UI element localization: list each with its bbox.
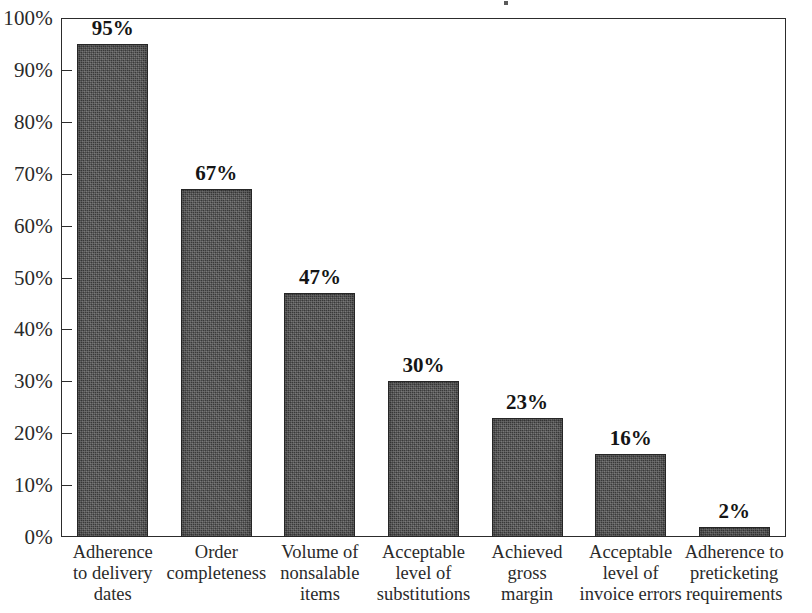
bar[interactable] [699,527,770,537]
x-axis-labels: Adherenceto deliverydatesOrdercompletene… [61,542,786,613]
x-axis-category-line: Order [161,542,273,563]
bar-slot: 2% [699,18,770,537]
x-axis-category-line: Adherence [57,542,169,563]
x-axis-category-line: Adherence to [678,542,790,563]
y-axis: 0%10%20%30%40%50%60%70%80%90%100% [0,0,61,613]
bar-chart-figure: 0%10%20%30%40%50%60%70%80%90%100% 95%67%… [0,0,812,613]
x-axis-category-line: substitutions [368,584,480,605]
y-tick-label: 20% [14,423,53,444]
bar-value-label: 23% [492,392,563,413]
bar[interactable] [492,418,563,537]
bar[interactable] [388,381,459,537]
y-tick-label: 60% [14,215,53,236]
x-axis-category-label: Adherence topreticketingrequirements [678,542,790,605]
x-axis-category-label: Acceptablelevel ofsubstitutions [368,542,480,605]
y-tick-mark [61,70,72,71]
bar[interactable] [181,189,252,537]
x-axis-category-line: Acceptable [575,542,687,563]
bar[interactable] [77,44,148,537]
y-tick-mark [61,226,72,227]
y-tick-label: 10% [14,475,53,496]
x-axis-category-line: to delivery [57,563,169,584]
bar-series: 95%67%47%30%23%16%2% [61,18,786,537]
x-axis-category-line: Acceptable [368,542,480,563]
y-tick-mark [61,381,72,382]
bar-value-label: 16% [595,428,666,449]
x-axis-category-line: preticketing [678,563,790,584]
x-axis-category-line: level of [575,563,687,584]
bar-slot: 16% [595,18,666,537]
bar-slot: 23% [492,18,563,537]
x-axis-category-line: gross [471,563,583,584]
x-axis-category-line: dates [57,584,169,605]
y-tick-mark [61,485,72,486]
cropped-title-artifact [504,1,508,5]
x-axis-category-line: Achieved [471,542,583,563]
bar[interactable] [595,454,666,537]
bar-slot: 95% [77,18,148,537]
y-tick-label: 50% [14,267,53,288]
x-axis-category-line: nonsalable [264,563,376,584]
bar-slot: 47% [284,18,355,537]
x-axis-category-label: Volume ofnonsalableitems [264,542,376,605]
y-tick-label: 0% [25,527,53,548]
y-tick-label: 90% [14,59,53,80]
x-axis-category-line: level of [368,563,480,584]
bar-slot: 30% [388,18,459,537]
bar-value-label: 47% [284,267,355,288]
x-axis-category-label: Ordercompleteness [161,542,273,584]
x-axis-category-line: requirements [678,584,790,605]
bar-value-label: 95% [77,18,148,39]
x-axis-category-label: Achievedgrossmargin [471,542,583,605]
x-axis-category-line: margin [471,584,583,605]
x-axis-category-label: Adherenceto deliverydates [57,542,169,605]
x-axis-category-line: items [264,584,376,605]
y-tick-label: 80% [14,111,53,132]
y-tick-label: 70% [14,163,53,184]
y-tick-mark [61,122,72,123]
y-tick-mark [61,174,72,175]
y-tick-label: 100% [3,8,53,29]
x-axis-category-label: Acceptablelevel ofinvoice errors [575,542,687,605]
y-tick-label: 30% [14,371,53,392]
y-tick-label: 40% [14,319,53,340]
x-axis-category-line: Volume of [264,542,376,563]
bar-value-label: 67% [181,163,252,184]
bar-value-label: 30% [388,355,459,376]
bar-slot: 67% [181,18,252,537]
y-tick-mark [61,278,72,279]
bar-value-label: 2% [699,501,770,522]
x-axis-category-line: invoice errors [575,584,687,605]
bar[interactable] [284,293,355,537]
y-tick-mark [61,433,72,434]
y-tick-mark [61,329,72,330]
x-axis-category-line: completeness [161,563,273,584]
